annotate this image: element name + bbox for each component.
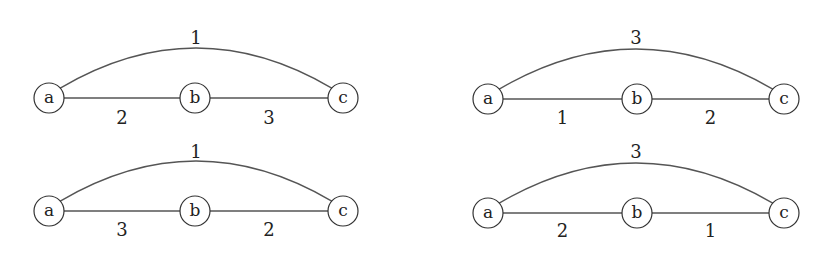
graph-diagram: 123abc312abc132abc321abc [0, 0, 823, 254]
node-c: c [328, 196, 358, 226]
node-label: a [44, 87, 54, 107]
graph-bottom-left: 132abc [34, 141, 358, 240]
node-label: b [190, 87, 201, 107]
node-label: a [483, 202, 493, 222]
edge-weight-a-b: 2 [557, 220, 568, 241]
node-a: a [473, 84, 503, 114]
graph-top-right: 312abc [473, 27, 799, 128]
graph-bottom-right: 321abc [473, 141, 799, 241]
node-label: b [632, 202, 643, 222]
edge-weight-a-c: 3 [630, 27, 641, 48]
node-c: c [769, 198, 799, 228]
node-label: a [483, 88, 493, 108]
edge-weight-a-b: 1 [557, 107, 568, 128]
node-label: c [338, 200, 348, 220]
node-a: a [34, 196, 64, 226]
edge-weight-a-c: 1 [190, 27, 201, 48]
node-b: b [180, 196, 210, 226]
node-label: c [779, 88, 789, 108]
node-c: c [328, 83, 358, 113]
edge-a-c [60, 48, 332, 88]
node-label: c [779, 202, 789, 222]
node-a: a [473, 198, 503, 228]
edge-weight-a-c: 1 [190, 141, 201, 162]
node-label: c [338, 87, 348, 107]
edge-weight-b-c: 2 [705, 107, 716, 128]
graph-top-left: 123abc [34, 27, 358, 128]
node-a: a [34, 83, 64, 113]
edge-weight-a-b: 2 [116, 107, 127, 128]
node-b: b [180, 83, 210, 113]
node-c: c [769, 84, 799, 114]
edge-a-c [499, 163, 773, 203]
edge-weight-a-c: 3 [630, 141, 641, 162]
node-label: b [190, 200, 201, 220]
node-label: a [44, 200, 54, 220]
edge-weight-b-c: 1 [705, 220, 716, 241]
edge-weight-b-c: 3 [263, 107, 274, 128]
node-b: b [622, 84, 652, 114]
edge-a-c [499, 49, 773, 89]
node-b: b [622, 198, 652, 228]
edge-weight-b-c: 2 [263, 219, 274, 240]
node-label: b [632, 88, 643, 108]
edge-weight-a-b: 3 [116, 219, 127, 240]
edge-a-c [60, 161, 332, 201]
